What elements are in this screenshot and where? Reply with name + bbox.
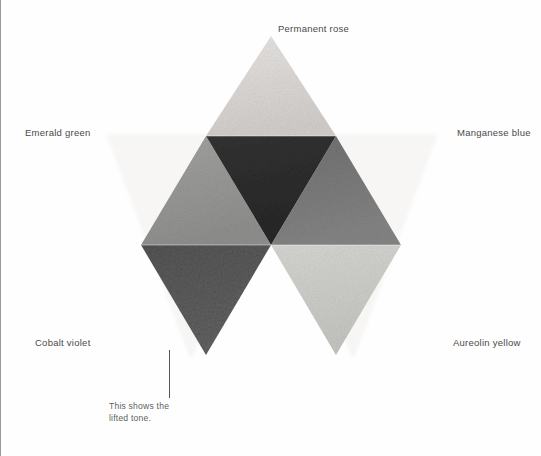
label-aureolin-yellow: Aureolin yellow [453,338,521,349]
swatch-cobalt-violet [141,245,271,355]
swatch-permanent-rose [206,36,336,136]
hexagram-figure: Permanent rose Emerald green Manganese b… [1,0,541,456]
label-cobalt-violet: Cobalt violet [35,338,91,349]
label-emerald-green: Emerald green [25,128,91,139]
caption-leader-line [169,350,170,398]
hexagram-artwork [1,0,541,456]
label-manganese-blue: Manganese blue [457,128,531,139]
figure-page: Permanent rose Emerald green Manganese b… [0,0,541,456]
swatch-aureolin-yellow [271,245,401,355]
label-permanent-rose: Permanent rose [278,24,349,35]
caption-lifted-tone: This shows the lifted tone. [109,400,169,425]
